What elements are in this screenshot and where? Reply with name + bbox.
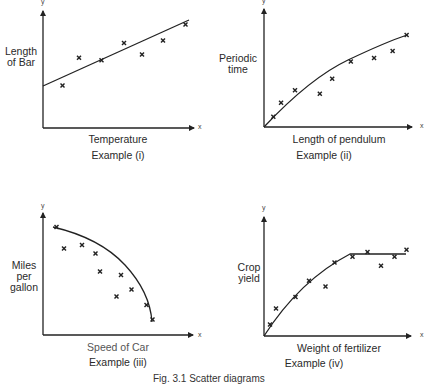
y-label-i: Length of Bar (2, 46, 40, 68)
title-i: Example (i) (43, 149, 193, 161)
y-axis-letter-i: y (41, 0, 45, 5)
x-label-iii: Speed of Car (43, 341, 193, 353)
x-label-i: Temperature (43, 133, 193, 145)
y-axis-letter-iii: y (41, 202, 45, 209)
y-label-ii: Periodic time (216, 53, 260, 75)
x-axis-letter-iii: x (198, 331, 202, 338)
x-axis-letter-i: x (198, 123, 202, 130)
y-axis-letter-ii: y (262, 0, 266, 4)
title-ii: Example (ii) (264, 149, 384, 161)
x-axis-letter-ii: x (420, 122, 424, 129)
fit-line-i (43, 20, 189, 86)
title-iv: Example (iv) (264, 357, 364, 369)
figure-caption: Fig. 3.1 Scatter diagrams (153, 373, 265, 384)
fit-curve-iii (53, 227, 152, 322)
y-axis-letter-iv: y (262, 204, 266, 211)
x-label-ii: Length of pendulum (264, 133, 414, 145)
title-iii: Example (iii) (43, 356, 193, 368)
x-label-iv: Weight of fertilizer (264, 342, 414, 354)
fit-curve-ii (264, 35, 407, 127)
y-label-iv: Crop yield (234, 262, 264, 284)
y-label-iii: Miles per gallon (6, 260, 42, 293)
x-axis-letter-iv: x (420, 331, 424, 338)
fit-curve-iv (264, 254, 406, 336)
